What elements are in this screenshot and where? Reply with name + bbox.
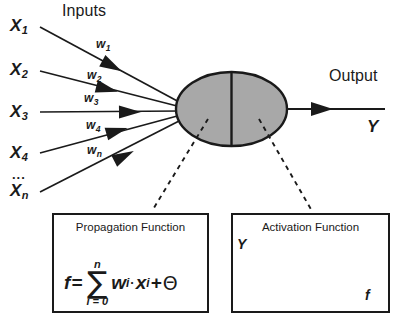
input-label-4-name: X — [10, 143, 21, 162]
weight-label-1: w1 — [96, 38, 110, 52]
formula-term-w: w — [111, 272, 126, 294]
formula-equals: = — [71, 272, 82, 294]
inputs-title: Inputs — [62, 3, 106, 19]
weight-label-2: w2 — [87, 69, 101, 83]
output-symbol: Y — [367, 118, 378, 135]
input-label-2: X2 — [10, 61, 28, 80]
weight-label-n-sub: n — [97, 149, 102, 159]
input-line-3 — [40, 111, 181, 112]
activation-y-axis-label: Y — [237, 237, 246, 251]
input-label-n-sub: n — [22, 189, 29, 201]
formula-plus: + — [151, 272, 162, 294]
input-arrowhead-4 — [105, 122, 130, 141]
weight-label-n-name: w — [87, 143, 96, 157]
input-arrowhead-3 — [119, 105, 141, 118]
input-label-1-name: X — [10, 16, 21, 35]
output-arrowhead — [311, 102, 333, 116]
weight-label-4-sub: 4 — [96, 124, 101, 134]
formula-sum-symbol: ∑ — [87, 269, 107, 297]
weight-label-1-sub: 1 — [106, 43, 111, 53]
input-label-n: Xn — [10, 182, 29, 201]
weight-label-3-sub: 3 — [94, 97, 99, 107]
activation-function-title: Activation Function — [233, 221, 388, 233]
weight-label-4-name: w — [86, 118, 95, 132]
input-label-2-name: X — [10, 60, 21, 79]
propagation-function-title: Propagation Function — [54, 221, 207, 233]
input-label-n-name: X — [10, 181, 21, 200]
formula-lhs: f — [64, 272, 70, 294]
formula-summation: n ∑ i = 0 — [86, 259, 108, 307]
output-title: Output — [329, 68, 378, 84]
input-label-3-sub: 3 — [22, 110, 28, 122]
input-label-1: X1 — [10, 17, 28, 36]
input-label-3: X3 — [10, 103, 28, 122]
input-arrowhead-1 — [99, 55, 125, 77]
weight-label-3-name: w — [84, 91, 93, 105]
weight-label-2-name: w — [87, 68, 96, 82]
formula-sum-lower: i = 0 — [86, 296, 108, 307]
formula-term-x: x — [136, 272, 147, 294]
propagation-function-box: Propagation Function f = n ∑ i = 0 wi · … — [52, 213, 209, 313]
formula-term-x-sub: i — [146, 276, 149, 290]
activation-x-axis-label: f — [365, 288, 370, 302]
formula-term-w-sub: i — [126, 276, 129, 290]
weight-label-3: w3 — [84, 92, 98, 106]
neuron-diagram: Inputs Output Y X1 X2 X3 X4 ... Xn w1 w2… — [0, 0, 395, 319]
formula-dot: · — [130, 275, 134, 290]
formula-theta: Θ — [163, 272, 178, 294]
input-label-2-sub: 2 — [22, 68, 28, 80]
weight-label-1-name: w — [96, 37, 105, 51]
input-ellipsis: ... — [12, 168, 26, 181]
propagation-formula: f = n ∑ i = 0 wi · xi + Θ — [64, 259, 178, 307]
input-label-4-sub: 4 — [22, 151, 28, 163]
weight-label-n: wn — [87, 144, 102, 158]
input-label-4: X4 — [10, 144, 28, 163]
weight-label-2-sub: 2 — [97, 74, 102, 84]
input-connection-lines — [40, 27, 181, 192]
weight-label-4: w4 — [86, 119, 100, 133]
input-label-1-sub: 1 — [22, 24, 28, 36]
input-label-3-name: X — [10, 102, 21, 121]
